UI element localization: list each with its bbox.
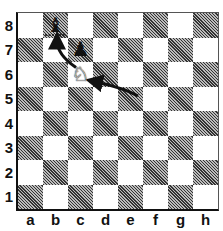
black-bishop-icon: ♝ [43,13,68,38]
move-arrows [0,0,223,231]
white-knight-icon: ♘ [68,62,93,87]
black-pawn-icon: ♟ [68,37,93,62]
